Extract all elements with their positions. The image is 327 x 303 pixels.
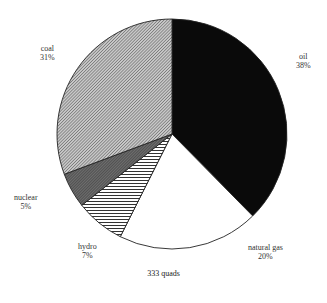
label-natural-gas: natural gas 20%: [248, 243, 283, 261]
pie-slices: [57, 19, 287, 249]
total-label: 333 quads: [0, 269, 327, 278]
label-nuclear-name: nuclear: [14, 193, 38, 202]
label-oil-name: oil: [296, 52, 311, 61]
label-natural-gas-pct: 20%: [248, 252, 283, 261]
label-oil-pct: 38%: [296, 61, 311, 70]
label-coal: coal 31%: [40, 44, 55, 62]
label-nuclear-pct: 5%: [14, 202, 38, 211]
label-hydro-pct: 7%: [78, 251, 97, 260]
label-coal-pct: 31%: [40, 53, 55, 62]
label-natural-gas-name: natural gas: [248, 243, 283, 252]
label-nuclear: nuclear 5%: [14, 193, 38, 211]
label-oil: oil 38%: [296, 52, 311, 70]
label-hydro: hydro 7%: [78, 242, 97, 260]
label-coal-name: coal: [40, 44, 55, 53]
label-hydro-name: hydro: [78, 242, 97, 251]
